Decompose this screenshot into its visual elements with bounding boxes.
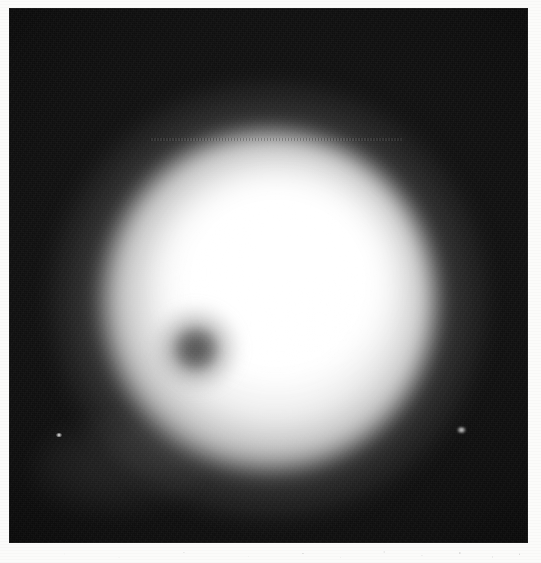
photographic-plate: defocused luminous disk with dark spot d…: [9, 8, 528, 543]
plate-emulsion-base: [9, 8, 528, 543]
scanned-plate-page: defocused luminous disk with dark spot d…: [0, 0, 541, 563]
scanner-dust-specks: [0, 543, 541, 563]
